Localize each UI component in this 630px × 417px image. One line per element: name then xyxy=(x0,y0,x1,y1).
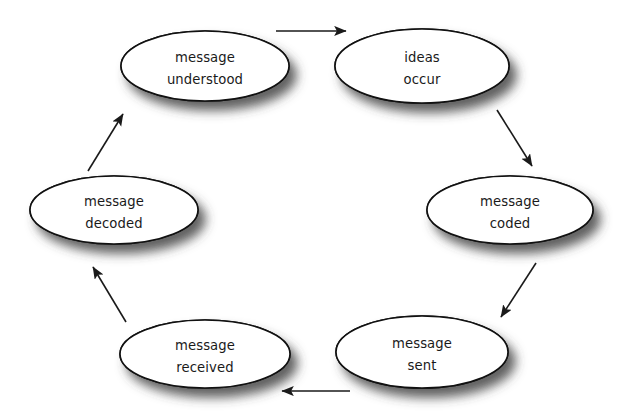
node-label-message-understood-line1: message xyxy=(175,50,235,65)
node-ellipse-message-understood[interactable] xyxy=(121,31,289,101)
diagram-svg: message understood ideas occur message c… xyxy=(0,0,630,417)
arrow-coded-to-sent xyxy=(501,263,536,317)
node-ideas-occur[interactable]: ideas occur xyxy=(335,29,509,103)
node-label-message-decoded-line1: message xyxy=(84,194,144,209)
node-message-sent[interactable]: message sent xyxy=(336,316,508,388)
node-message-understood[interactable]: message understood xyxy=(121,31,289,101)
node-ellipse-message-decoded[interactable] xyxy=(30,176,198,244)
arrow-ideas-to-coded xyxy=(497,110,532,166)
node-label-message-coded-line2: coded xyxy=(490,216,531,231)
node-label-message-sent-line1: message xyxy=(392,336,452,351)
node-ellipse-message-sent[interactable] xyxy=(336,316,508,388)
node-label-ideas-occur-line2: occur xyxy=(404,72,441,87)
node-ellipse-message-received[interactable] xyxy=(120,320,290,388)
node-label-message-understood-line2: understood xyxy=(167,72,243,87)
node-message-received[interactable]: message received xyxy=(120,320,290,388)
arrow-decoded-to-understood xyxy=(88,114,123,171)
node-ellipse-ideas-occur[interactable] xyxy=(335,29,509,103)
communication-cycle-diagram: message understood ideas occur message c… xyxy=(0,0,630,417)
node-label-message-sent-line2: sent xyxy=(408,358,437,373)
node-ellipse-message-coded[interactable] xyxy=(427,176,593,244)
node-message-coded[interactable]: message coded xyxy=(427,176,593,244)
node-label-message-received-line2: received xyxy=(176,360,233,375)
node-label-message-coded-line1: message xyxy=(480,194,540,209)
arrow-received-to-decoded xyxy=(93,267,126,322)
node-label-message-received-line1: message xyxy=(175,338,235,353)
node-label-ideas-occur-line1: ideas xyxy=(404,50,440,65)
node-message-decoded[interactable]: message decoded xyxy=(30,176,198,244)
node-label-message-decoded-line2: decoded xyxy=(85,216,142,231)
